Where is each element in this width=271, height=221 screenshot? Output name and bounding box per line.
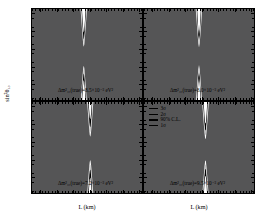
figure-contour-grid: sin²θ₁₃ 0.220.240.260.280.30.32 Δm²₃₁(tr… [0, 0, 271, 221]
legend-label-1sigma: 1σ [161, 123, 166, 129]
annotation-top-left: Δm²₃₁(true)=8.5×10⁻³ eV² [58, 87, 113, 93]
legend-swatch-1sigma [149, 125, 158, 126]
panel-bottom-right: 405060708090100 3σ 2σ 90% C.L. 1σ [143, 101, 255, 194]
panel-grid: 0.220.240.260.280.30.32 Δm²₃₁(true)=8.5×… [31, 8, 255, 194]
annotation-bottom-right: Δm²₃₁(true)=9.5×10⁻³ eV² [170, 180, 225, 186]
legend-swatch-2sigma [149, 114, 158, 115]
panel-top-right: Δm²₃₁(true)=8.0×10⁻³ eV² [143, 8, 255, 101]
legend: 3σ 2σ 90% C.L. 1σ [149, 106, 181, 128]
x-axis-label-left: L (km) [67, 203, 107, 210]
annotation-top-right: Δm²₃₁(true)=8.0×10⁻³ eV² [170, 87, 225, 93]
legend-item-1sigma: 1σ [149, 123, 181, 129]
panel-bottom-left: 0.220.240.260.280.30.32405060708090100 Δ… [31, 101, 143, 194]
x-axis-label-right: L (km) [179, 203, 219, 210]
legend-swatch-90cl [149, 119, 158, 120]
legend-swatch-3sigma [149, 108, 158, 109]
annotation-bottom-left: Δm²₃₁(true)=7.2×10⁻³ eV² [58, 180, 113, 186]
y-axis-label-text: sin²θ₁₃ [3, 85, 10, 101]
panel-top-left: 0.220.240.260.280.30.32 Δm²₃₁(true)=8.5×… [31, 8, 143, 101]
y-axis-label: sin²θ₁₃ [0, 0, 13, 186]
